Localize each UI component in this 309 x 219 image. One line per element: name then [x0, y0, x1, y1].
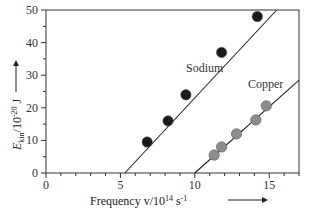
copper-data-point: [251, 115, 261, 125]
x-tick-label: 0: [43, 178, 49, 192]
y-axis-arrow: [13, 60, 19, 92]
copper-data-point: [216, 142, 226, 152]
sodium-data-point: [142, 137, 152, 147]
y-tick-label: 40: [26, 36, 38, 50]
y-axis-title: Ekin/10-20 J: [10, 98, 26, 151]
x-tick-label: 15: [263, 178, 275, 192]
y-tick-label: 0: [32, 166, 38, 180]
sodium-fit-line: [125, 10, 277, 173]
plot-frame: [46, 10, 299, 173]
sodium-data-point: [216, 47, 226, 57]
copper-data-point: [209, 150, 219, 160]
x-tick-label: 10: [189, 178, 201, 192]
y-tick-label: 20: [26, 101, 38, 115]
sodium-series-label: Sodium: [186, 61, 224, 75]
y-tick-label: 30: [26, 68, 38, 82]
copper-data-point: [261, 101, 271, 111]
sodium-data-point: [163, 116, 173, 126]
axis-ticks: 05101501020304050: [26, 3, 299, 192]
x-axis-arrow: [228, 197, 268, 203]
x-axis-title: Frequency v/1014 s-1: [90, 194, 187, 208]
y-tick-label: 50: [26, 3, 38, 17]
y-tick-label: 10: [26, 133, 38, 147]
fit-lines: [125, 10, 299, 173]
sodium-data-point: [252, 11, 262, 21]
svg-text:Ekin/10-20 J: Ekin/10-20 J: [10, 98, 26, 151]
sodium-data-point: [181, 90, 191, 100]
photoelectric-chart: 05101501020304050 Sodium Copper Frequenc…: [0, 0, 309, 219]
x-tick-label: 5: [117, 178, 123, 192]
copper-series-label: Copper: [248, 77, 283, 91]
copper-data-point: [231, 129, 241, 139]
